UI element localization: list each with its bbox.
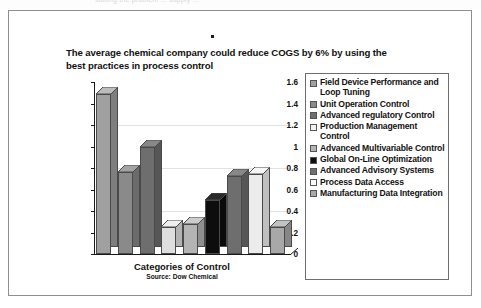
- bar-top-face: [205, 193, 227, 200]
- legend-item-label: Advanced regulatory Control: [320, 110, 434, 120]
- source-note: Source: Dow Chemical: [66, 273, 298, 280]
- bar-top-face: [161, 220, 183, 227]
- bar-top-face: [118, 165, 140, 172]
- bar-front-face: [96, 94, 111, 254]
- legend-swatch-icon: [310, 168, 317, 175]
- bar-front-face: [227, 176, 242, 254]
- bar[interactable]: [183, 224, 198, 254]
- scan-artifact-strip: stating the problem ... supply ...: [0, 0, 481, 9]
- chart-legend: Field Device Performance and Loop Tuning…: [305, 73, 449, 280]
- legend-item-label: Manufacturing Data Integration: [320, 188, 443, 198]
- legend-swatch-icon: [310, 190, 317, 197]
- bar[interactable]: [270, 227, 285, 254]
- bar-side-face: [242, 169, 249, 247]
- legend-item[interactable]: Advanced regulatory Control: [310, 110, 446, 120]
- legend-item[interactable]: Advanced Advisory Systems: [310, 165, 446, 175]
- legend-item[interactable]: Production Management Control: [310, 121, 446, 142]
- legend-swatch-icon: [310, 80, 317, 87]
- legend-swatch-icon: [310, 157, 317, 164]
- legend-item-label: Advanced Multivariable Control: [320, 143, 444, 153]
- legend-swatch-icon: [310, 124, 317, 131]
- bar[interactable]: [118, 172, 133, 254]
- chart-title: The average chemical company could reduc…: [66, 47, 396, 72]
- bar-side-face: [155, 140, 162, 248]
- legend-item-label: Unit Operation Control: [320, 99, 409, 109]
- x-axis-title: Categories of Control: [66, 261, 298, 272]
- plot-area: 00.20.40.60.811.21.41.6: [66, 75, 298, 261]
- bar-top-face: [96, 87, 118, 94]
- legend-item-label: Process Data Access: [320, 177, 404, 187]
- legend-swatch-icon: [310, 179, 317, 186]
- bar[interactable]: [140, 147, 155, 255]
- legend-item[interactable]: Advanced Multivariable Control: [310, 143, 446, 153]
- bar-front-face: [140, 147, 155, 255]
- legend-item[interactable]: Manufacturing Data Integration: [310, 188, 446, 198]
- bar[interactable]: [205, 200, 220, 254]
- bar-top-face: [140, 140, 162, 147]
- bar-side-face: [111, 87, 118, 247]
- bars-layer: [95, 75, 291, 255]
- legend-item[interactable]: Global On-Line Optimization: [310, 154, 446, 164]
- legend-item-label: Advanced Advisory Systems: [320, 165, 434, 175]
- bar-front-face: [205, 200, 220, 254]
- bar-front-face: [118, 172, 133, 254]
- legend-item[interactable]: Process Data Access: [310, 177, 446, 187]
- bar-side-face: [263, 167, 270, 247]
- legend-swatch-icon: [310, 112, 317, 119]
- bar[interactable]: [161, 227, 176, 254]
- bar-front-face: [270, 227, 285, 254]
- legend-item-label: Production Management Control: [320, 121, 446, 142]
- bar-side-face: [133, 165, 140, 247]
- legend-swatch-icon: [310, 145, 317, 152]
- legend-item-label: Global On-Line Optimization: [320, 154, 432, 164]
- legend-swatch-icon: [310, 101, 317, 108]
- axis-depth-edge: [290, 248, 298, 255]
- page-frame: The average chemical company could reduc…: [8, 10, 472, 296]
- legend-item[interactable]: Unit Operation Control: [310, 99, 446, 109]
- bar[interactable]: [248, 174, 263, 254]
- bar-top-face: [248, 167, 270, 174]
- scan-artifact-text: stating the problem ... supply ...: [95, 0, 199, 3]
- bar-top-face: [227, 169, 249, 176]
- bar-front-face: [248, 174, 263, 254]
- bar-top-face: [270, 220, 292, 227]
- bar-front-face: [161, 227, 176, 254]
- bar[interactable]: [227, 176, 242, 254]
- legend-item[interactable]: Field Device Performance and Loop Tuning: [310, 77, 446, 98]
- bullet-dot-marker: [211, 35, 214, 38]
- bar[interactable]: [96, 94, 111, 254]
- bar-top-face: [183, 217, 205, 224]
- legend-item-label: Field Device Performance and Loop Tuning: [320, 77, 446, 98]
- bar-front-face: [183, 224, 198, 254]
- bar-side-face: [220, 193, 227, 247]
